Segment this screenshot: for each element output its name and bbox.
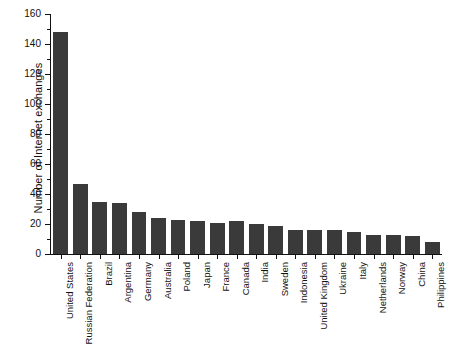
y-tick: 120: [45, 74, 50, 75]
y-tick-minor: [47, 209, 50, 210]
bar: [210, 223, 225, 255]
y-tick: 140: [45, 44, 50, 45]
y-tick: 100: [45, 104, 50, 105]
bar-chart: Number of Internet exchanges 02040608010…: [0, 0, 454, 354]
bar: [268, 226, 283, 255]
x-tick: [374, 254, 375, 259]
y-tick: 20: [45, 224, 50, 225]
x-tick: [100, 254, 101, 259]
bar: [132, 212, 147, 254]
x-tick: [354, 254, 355, 259]
x-tick: [80, 254, 81, 259]
x-tick-label: Argentina: [123, 262, 133, 303]
x-tick-label: Brazil: [104, 262, 114, 286]
bar: [366, 235, 381, 255]
x-axis-line: [50, 254, 442, 255]
y-tick: 0: [45, 254, 50, 255]
bar: [92, 202, 107, 255]
y-tick-label: 0: [35, 247, 41, 260]
x-tick: [295, 254, 296, 259]
bar-slot: [364, 10, 384, 254]
y-tick-minor: [47, 59, 50, 60]
bar-slot: [227, 10, 247, 254]
x-tick: [413, 254, 414, 259]
x-tick-label: Russian Federation: [84, 262, 94, 344]
x-tick-label: Poland: [182, 262, 192, 292]
bar-slot: [325, 10, 345, 254]
x-tick: [393, 254, 394, 259]
bar-slot: [305, 10, 325, 254]
y-tick: 160: [45, 14, 50, 15]
bar-slot: [51, 10, 71, 254]
x-tick-label: Ukraine: [338, 262, 348, 295]
bar-slot: [286, 10, 306, 254]
x-tick-label: United States: [65, 262, 75, 319]
y-tick-minor: [47, 179, 50, 180]
bar-slot: [149, 10, 169, 254]
bar: [171, 220, 186, 255]
y-tick-label: 140: [24, 37, 41, 50]
bar: [151, 218, 166, 254]
x-tick-label: China: [417, 262, 427, 287]
y-tick-label: 20: [30, 217, 41, 230]
bar-slot: [90, 10, 110, 254]
bar-slot: [207, 10, 227, 254]
y-tick: 40: [45, 194, 50, 195]
bar-slot: [188, 10, 208, 254]
y-tick-label: 160: [24, 7, 41, 20]
bar: [288, 230, 303, 254]
y-tick-minor: [47, 239, 50, 240]
bar-slot: [247, 10, 267, 254]
x-tick-label: Philippines: [436, 262, 446, 308]
x-tick-label: Indonesia: [299, 262, 309, 303]
bar-slot: [422, 10, 442, 254]
y-tick-label: 120: [24, 67, 41, 80]
x-tick: [198, 254, 199, 259]
y-tick-minor: [47, 119, 50, 120]
y-tick: 80: [45, 134, 50, 135]
x-tick-label: Japan: [202, 262, 212, 288]
x-tick: [119, 254, 120, 259]
y-tick-label: 60: [30, 157, 41, 170]
x-tick: [178, 254, 179, 259]
x-tick: [315, 254, 316, 259]
bar: [229, 221, 244, 254]
bar: [73, 184, 88, 255]
y-tick-label: 80: [30, 127, 41, 140]
bar: [327, 230, 342, 254]
bar-slot: [403, 10, 423, 254]
bar-slot: [71, 10, 91, 254]
x-tick-label: India: [260, 262, 270, 283]
x-tick: [139, 254, 140, 259]
bar: [53, 32, 68, 254]
bar-slot: [129, 10, 149, 254]
x-tick: [159, 254, 160, 259]
x-tick: [276, 254, 277, 259]
y-tick-minor: [47, 89, 50, 90]
x-tick-label: Italy: [358, 262, 368, 279]
x-tick-label: Australia: [163, 262, 173, 299]
bar: [347, 232, 362, 255]
x-tick: [61, 254, 62, 259]
x-tick-label: Norway: [397, 262, 407, 294]
x-tick-label: Germany: [143, 262, 153, 301]
x-tick: [334, 254, 335, 259]
bar: [405, 236, 420, 254]
x-tick-label: Sweden: [280, 262, 290, 296]
bar-slot: [344, 10, 364, 254]
bar-slot: [266, 10, 286, 254]
bar: [425, 242, 440, 254]
y-tick: 60: [45, 164, 50, 165]
x-tick-label: Canada: [241, 262, 251, 295]
bar-series: [51, 10, 442, 254]
x-tick-label: France: [221, 262, 231, 292]
x-tick: [217, 254, 218, 259]
bar-slot: [168, 10, 188, 254]
bar: [249, 224, 264, 254]
bar: [190, 221, 205, 254]
x-tick-label: Netherlands: [378, 262, 388, 313]
y-tick-label: 40: [30, 187, 41, 200]
x-tick-label: United Kingdom: [319, 262, 329, 330]
x-tick: [432, 254, 433, 259]
plot-area: 020406080100120140160 United StatesRussi…: [50, 10, 446, 258]
